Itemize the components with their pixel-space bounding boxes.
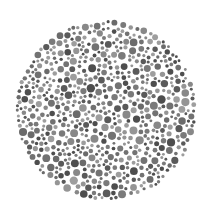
plate-dot <box>58 152 62 156</box>
plate-dot <box>80 48 83 51</box>
plate-dot <box>152 47 157 52</box>
plate-dot <box>132 161 136 165</box>
plate-dot <box>75 36 81 42</box>
plate-dot <box>79 151 82 154</box>
plate-dot <box>86 180 89 183</box>
plate-dot <box>70 176 78 184</box>
plate-dot <box>119 100 123 104</box>
plate-dot <box>82 35 86 39</box>
plate-dot <box>84 74 88 78</box>
plate-dot <box>102 106 105 109</box>
plate-dot <box>129 99 132 102</box>
plate-dot <box>177 145 181 149</box>
plate-dot <box>56 140 62 146</box>
plate-dot <box>32 96 35 99</box>
plate-dot <box>58 161 64 167</box>
plate-dot <box>136 91 140 95</box>
plate-dot <box>51 152 55 156</box>
plate-dot <box>52 51 56 55</box>
plate-dot <box>164 110 169 115</box>
plate-dot <box>150 63 153 66</box>
plate-dot <box>105 150 109 154</box>
plate-dot <box>137 53 141 57</box>
plate-dot <box>181 98 189 106</box>
plate-dot <box>150 71 156 77</box>
plate-dot <box>101 196 104 199</box>
plate-dot <box>112 29 117 34</box>
plate-dot <box>123 143 126 146</box>
plate-dot <box>103 190 111 198</box>
plate-dot <box>167 131 172 136</box>
plate-dot <box>95 160 99 164</box>
plate-dot <box>76 78 83 85</box>
plate-dot <box>171 85 174 88</box>
plate-dot <box>98 77 105 84</box>
plate-dot <box>140 68 143 71</box>
plate-dot <box>81 118 85 122</box>
plate-dot <box>165 49 170 54</box>
plate-dot <box>29 99 34 104</box>
plate-dot <box>161 134 165 138</box>
plate-dot <box>71 26 75 30</box>
plate-dot <box>122 130 127 135</box>
plate-dot <box>132 178 136 182</box>
plate-dot <box>30 154 36 160</box>
plate-dot <box>187 109 190 112</box>
plate-dot <box>122 96 125 99</box>
plate-dot <box>65 44 69 48</box>
plate-dot <box>65 49 72 56</box>
plate-dot <box>188 82 193 87</box>
plate-dot <box>104 95 108 99</box>
plate-dot <box>96 170 103 177</box>
plate-dot <box>101 139 106 144</box>
plate-dot <box>61 149 64 152</box>
plate-dot <box>141 59 146 64</box>
plate-dot <box>127 156 132 161</box>
plate-dot <box>112 41 115 44</box>
plate-dot <box>108 154 114 160</box>
plate-dot <box>159 51 162 54</box>
plate-dot <box>127 119 131 123</box>
plate-dot <box>176 113 180 117</box>
plate-dot <box>29 75 32 78</box>
plate-dot <box>33 90 36 93</box>
plate-dot <box>18 100 22 104</box>
plate-dot <box>67 129 70 132</box>
plate-dot <box>152 34 158 40</box>
plate-dot <box>46 51 49 54</box>
plate-dot <box>101 46 105 50</box>
plate-dot <box>83 151 88 156</box>
plate-dot <box>147 60 150 63</box>
plate-dot <box>135 27 139 31</box>
plate-dot <box>119 133 122 136</box>
plate-dot <box>123 45 127 49</box>
plate-dot <box>81 146 85 150</box>
plate-dot <box>104 116 111 123</box>
plate-dot <box>49 78 52 81</box>
plate-dot <box>41 128 44 131</box>
plate-dot <box>65 92 73 100</box>
plate-dot <box>124 187 127 190</box>
plate-dot <box>53 125 57 129</box>
plate-dot <box>82 99 86 103</box>
plate-dot <box>58 110 61 113</box>
plate-dot <box>136 98 139 101</box>
plate-dot <box>77 144 80 147</box>
plate-dot <box>158 107 161 110</box>
plate-dot <box>137 159 140 162</box>
plate-dot <box>174 103 178 107</box>
dot-plate <box>0 0 212 212</box>
plate-dot <box>114 158 118 162</box>
plate-dot <box>190 97 194 101</box>
plate-dot <box>79 127 83 131</box>
plate-dot <box>169 63 173 67</box>
plate-dot <box>121 63 128 70</box>
plate-dot <box>48 88 51 91</box>
plate-dot <box>171 157 178 164</box>
plate-dot <box>24 140 29 145</box>
plate-dot <box>76 139 80 143</box>
plate-dot <box>92 179 97 184</box>
plate-dot <box>111 191 116 196</box>
plate-dot <box>93 186 97 190</box>
plate-dot <box>73 94 76 97</box>
